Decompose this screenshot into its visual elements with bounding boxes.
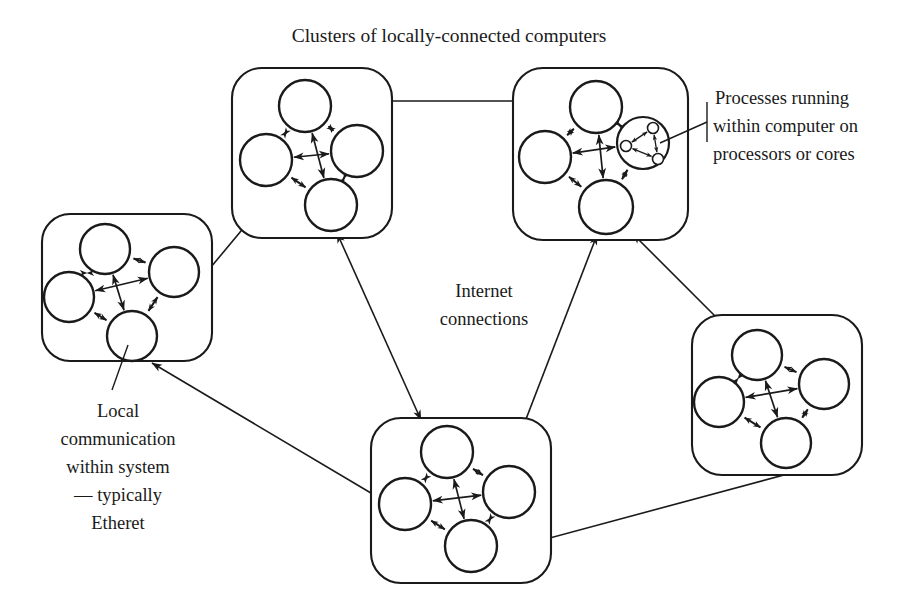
local-annotation-line5: Etheret xyxy=(91,513,145,533)
processes-annotation-line3: processors or cores xyxy=(713,144,855,164)
processes-annotation-line2: within computer on xyxy=(713,116,858,136)
diagram-labels: Clusters of locally-connected computers … xyxy=(0,0,899,615)
local-annotation-line2: communication xyxy=(60,429,175,449)
figure-root: Clusters of locally-connected computers … xyxy=(0,0,899,615)
local-annotation-line4: — typically xyxy=(73,485,163,505)
local-annotation-line1: Local xyxy=(97,401,139,421)
internet-connections-label-line2: connections xyxy=(440,309,528,329)
page-title: Clusters of locally-connected computers xyxy=(292,25,607,46)
internet-connections-label-line1: Internet xyxy=(455,281,513,301)
local-annotation-line3: within system xyxy=(66,457,170,477)
processes-annotation-line1: Processes running xyxy=(715,88,849,108)
